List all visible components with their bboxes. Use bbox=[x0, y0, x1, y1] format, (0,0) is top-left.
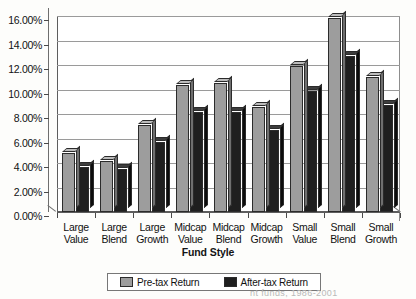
bar-front-face bbox=[366, 77, 379, 212]
bar-side-face bbox=[266, 99, 270, 208]
bar-side-face bbox=[76, 146, 80, 208]
bar-front-face bbox=[214, 83, 227, 212]
x-tick-mark bbox=[286, 213, 287, 218]
x-axis-title: Fund Style bbox=[0, 246, 416, 258]
bar-side-face bbox=[204, 104, 208, 208]
bar-side-face bbox=[190, 77, 194, 208]
legend-label-aftertax: After-tax Return bbox=[241, 277, 308, 288]
bar-side-face bbox=[280, 123, 284, 208]
bar-front-face bbox=[290, 66, 303, 212]
bar-front-face bbox=[252, 107, 265, 212]
x-tick-mark bbox=[362, 213, 363, 218]
bar-side-face bbox=[356, 49, 360, 208]
legend-item-pretax: Pre-tax Return bbox=[120, 277, 199, 288]
bar-side-face bbox=[304, 59, 308, 208]
x-tick-mark bbox=[57, 213, 58, 218]
legend-item-aftertax: After-tax Return bbox=[224, 277, 308, 288]
bar-midcap-blend-pretax bbox=[214, 83, 227, 212]
bar-side-face bbox=[90, 159, 94, 208]
x-tick-mark bbox=[133, 213, 134, 218]
bar-large-value-pretax bbox=[62, 153, 75, 212]
x-tick-mark bbox=[400, 213, 401, 218]
x-tick-mark bbox=[324, 213, 325, 218]
bar-large-blend-pretax bbox=[100, 161, 113, 212]
bar-small-value-pretax bbox=[290, 66, 303, 212]
bar-side-face bbox=[114, 153, 118, 208]
bar-side-face bbox=[228, 76, 232, 208]
x-tick-mark bbox=[209, 213, 210, 218]
bar-side-face bbox=[152, 118, 156, 208]
bar-small-blend-pretax bbox=[328, 18, 341, 212]
bar-front-face bbox=[138, 125, 151, 212]
x-axis-label-line: Growth bbox=[358, 234, 404, 246]
bar-midcap-growth-pretax bbox=[252, 107, 265, 212]
bar-midcap-value-pretax bbox=[176, 85, 189, 212]
legend-label-pretax: Pre-tax Return bbox=[137, 277, 199, 288]
legend-swatch-aftertax bbox=[224, 277, 237, 287]
bar-front-face bbox=[328, 18, 341, 212]
bar-side-face bbox=[342, 11, 346, 208]
bar-front-face bbox=[62, 153, 75, 212]
bar-side-face bbox=[394, 98, 398, 208]
bar-front-face bbox=[100, 161, 113, 212]
caption-fragment: nt funds, 1986-2001 bbox=[250, 288, 416, 298]
bar-front-face bbox=[176, 85, 189, 212]
bar-small-growth-pretax bbox=[366, 77, 379, 212]
bar-side-face bbox=[242, 104, 246, 208]
x-tick-mark bbox=[248, 213, 249, 218]
x-axis-label-line: Small bbox=[358, 222, 404, 234]
bar-side-face bbox=[318, 83, 322, 208]
bar-large-growth-pretax bbox=[138, 125, 151, 212]
bar-chart: 16.00%14.00%12.00%10.00%8.00%6.00%4.00%2… bbox=[0, 0, 416, 299]
legend-swatch-pretax bbox=[120, 277, 133, 287]
bar-side-face bbox=[128, 162, 132, 208]
bar-side-face bbox=[166, 135, 170, 208]
x-tick-mark bbox=[171, 213, 172, 218]
bar-side-face bbox=[380, 70, 384, 208]
x-tick-mark bbox=[95, 213, 96, 218]
x-axis-label-small-growth: SmallGrowth bbox=[358, 222, 404, 245]
